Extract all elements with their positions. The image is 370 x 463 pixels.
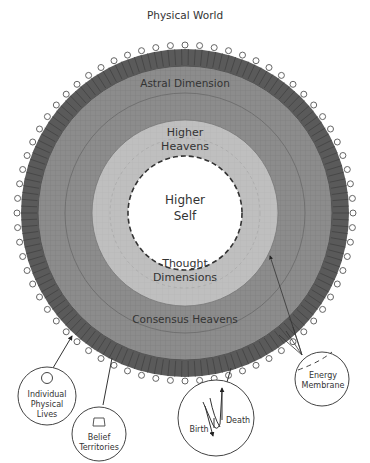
bead: [111, 362, 117, 368]
bead: [98, 356, 104, 362]
higher-heavens-label-1: Higher: [167, 126, 204, 139]
bead: [334, 139, 340, 145]
bead: [24, 153, 30, 159]
bead: [347, 181, 353, 187]
bead: [266, 356, 272, 362]
bead: [125, 368, 131, 374]
bead: [211, 45, 217, 51]
bead: [24, 268, 30, 274]
bead: [349, 225, 355, 231]
birth-label: Birth: [189, 425, 208, 434]
thought-dimensions-label-2: Dimensions: [153, 271, 217, 284]
bead: [74, 339, 80, 345]
bead: [226, 48, 232, 54]
bead: [153, 375, 159, 381]
bead: [278, 348, 284, 354]
territories-label: Territories: [78, 443, 119, 452]
bead: [197, 43, 203, 49]
bead: [266, 65, 272, 71]
bead: [139, 48, 145, 54]
bead: [311, 102, 317, 108]
afterlife-dimensions-diagram: Physical World Astral Dimension Higher H…: [0, 0, 370, 463]
bead: [20, 254, 26, 260]
bead: [37, 294, 43, 300]
higher-self-label-1: Higher: [165, 193, 205, 207]
bead: [328, 126, 334, 132]
bead: [347, 239, 353, 245]
bead: [320, 306, 326, 312]
bead: [311, 318, 317, 324]
bead: [139, 372, 145, 378]
bead: [74, 81, 80, 87]
bead: [111, 58, 117, 64]
bead: [334, 281, 340, 287]
bead: [182, 42, 188, 48]
astral-dimension-label: Astral Dimension: [140, 77, 230, 89]
energy-label: Energy: [309, 371, 337, 380]
bead: [15, 195, 21, 201]
bead: [86, 348, 92, 354]
bead: [240, 368, 246, 374]
bead: [167, 377, 173, 383]
bead: [86, 72, 92, 78]
bead: [253, 58, 259, 64]
bead: [53, 318, 59, 324]
membrane-label: Membrane: [302, 381, 345, 390]
bead: [182, 378, 188, 384]
belief-label: Belief: [88, 433, 111, 442]
bead: [15, 225, 21, 231]
physical-label: Physical: [31, 400, 64, 409]
bead: [63, 329, 69, 335]
bead: [125, 52, 131, 58]
bead: [44, 114, 50, 120]
lives-label: Lives: [37, 410, 58, 419]
belief-territories-pointer: [103, 358, 112, 405]
bead: [328, 294, 334, 300]
bead: [37, 126, 43, 132]
individual-label: Individual: [28, 390, 67, 399]
consensus-heavens-label: Consensus Heavens: [132, 313, 238, 325]
physical-world-label: Physical World: [147, 9, 223, 21]
bead: [17, 181, 23, 187]
bead: [344, 254, 350, 260]
bead: [53, 102, 59, 108]
bead: [14, 210, 20, 216]
bead: [350, 210, 356, 216]
bead: [153, 45, 159, 51]
bead: [30, 139, 36, 145]
higher-heavens-label-2: Heavens: [161, 140, 209, 153]
bead: [340, 153, 346, 159]
bead: [290, 81, 296, 87]
bead: [349, 195, 355, 201]
bead: [320, 114, 326, 120]
bead: [344, 167, 350, 173]
bead: [301, 91, 307, 97]
bead: [240, 52, 246, 58]
bead: [20, 167, 26, 173]
bead: [253, 362, 259, 368]
higher-self-label-2: Self: [174, 209, 197, 223]
bead: [98, 65, 104, 71]
thought-dimensions-label-1: Thought: [161, 257, 208, 270]
bead: [340, 268, 346, 274]
bead: [167, 43, 173, 49]
death-label: Death: [226, 416, 250, 425]
bead: [17, 239, 23, 245]
bead: [44, 306, 50, 312]
bead: [301, 329, 307, 335]
bead: [278, 72, 284, 78]
bead: [63, 91, 69, 97]
bead: [30, 281, 36, 287]
